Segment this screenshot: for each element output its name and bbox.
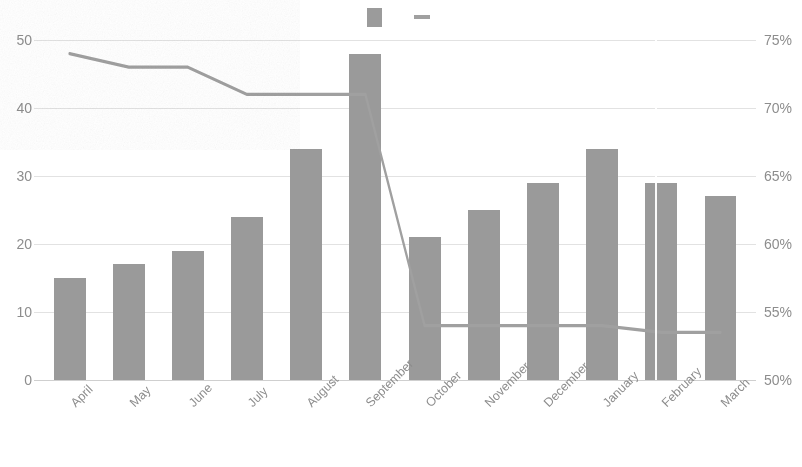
y-axis-right-percent: 50%55%60%65%70%75%	[756, 40, 802, 380]
bar-july[interactable]	[231, 217, 263, 380]
x-axis-category-labels: AprilMayJuneJulyAugustSeptemberOctoberNo…	[40, 398, 750, 464]
x-axis-tick-slot: March	[691, 398, 750, 464]
x-axis-tick-slot: May	[99, 398, 158, 464]
y2-axis-tick-55pct: 55%	[764, 305, 792, 319]
x-axis-tick-slot: August	[277, 398, 336, 464]
bar-april[interactable]	[54, 278, 86, 380]
bar-november[interactable]	[468, 210, 500, 380]
legend-bar-swatch-icon	[367, 8, 382, 27]
bar-august[interactable]	[290, 149, 322, 380]
y2-axis-tick-65pct: 65%	[764, 169, 792, 183]
legend-entry-bar-series[interactable]	[367, 8, 388, 27]
bar-march[interactable]	[705, 196, 737, 380]
bar-may[interactable]	[113, 264, 145, 380]
bar-january[interactable]	[586, 149, 618, 380]
scan-artifact-streak	[655, 40, 657, 380]
y2-axis-tick-50pct: 50%	[764, 373, 792, 387]
y-axis-tick-50: 50	[16, 33, 32, 47]
x-axis-tick-slot: December	[513, 398, 572, 464]
plot-area-wrapper: 01020304050 50%55%60%65%70%75%	[0, 40, 802, 395]
x-axis-tick-slot: February	[632, 398, 691, 464]
bar-slot	[632, 40, 691, 380]
x-axis-tick-slot: September	[336, 398, 395, 464]
legend-entry-line-series[interactable]	[414, 15, 436, 19]
chart-legend	[0, 4, 802, 30]
bar-slot	[573, 40, 632, 380]
y-axis-tick-30: 30	[16, 169, 32, 183]
x-axis-tick-slot: October	[395, 398, 454, 464]
bar-june[interactable]	[172, 251, 204, 380]
bar-series	[40, 40, 750, 380]
y2-axis-tick-75pct: 75%	[764, 33, 792, 47]
y-axis-tick-40: 40	[16, 101, 32, 115]
bar-february[interactable]	[645, 183, 677, 380]
x-axis-tick-slot: January	[573, 398, 632, 464]
x-axis-tick-slot: June	[158, 398, 217, 464]
y-axis-left: 01020304050	[0, 40, 36, 380]
bar-october[interactable]	[409, 237, 441, 380]
bar-slot	[40, 40, 99, 380]
x-axis-tick-slot: July	[218, 398, 277, 464]
bar-december[interactable]	[527, 183, 559, 380]
bar-slot	[218, 40, 277, 380]
bar-slot	[158, 40, 217, 380]
combo-chart: 01020304050 50%55%60%65%70%75% AprilMayJ…	[0, 0, 802, 467]
y-axis-tick-10: 10	[16, 305, 32, 319]
bar-slot	[99, 40, 158, 380]
plot-area	[40, 40, 750, 380]
y2-axis-tick-70pct: 70%	[764, 101, 792, 115]
y-axis-tick-20: 20	[16, 237, 32, 251]
bar-slot	[336, 40, 395, 380]
bar-slot	[454, 40, 513, 380]
x-axis-tick-slot: April	[40, 398, 99, 464]
bar-slot	[395, 40, 454, 380]
legend-line-swatch-icon	[414, 15, 430, 19]
x-axis-tick-slot: November	[454, 398, 513, 464]
bar-slot	[691, 40, 750, 380]
bar-slot	[513, 40, 572, 380]
y2-axis-tick-60pct: 60%	[764, 237, 792, 251]
bar-slot	[277, 40, 336, 380]
y-axis-tick-0: 0	[24, 373, 32, 387]
bar-september[interactable]	[349, 54, 381, 380]
